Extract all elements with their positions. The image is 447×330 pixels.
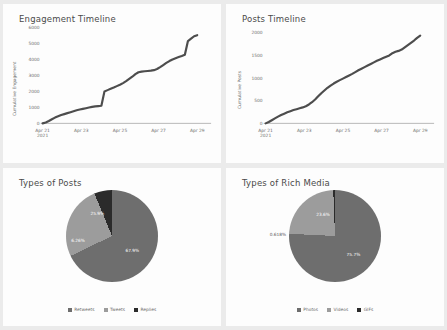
y-tick-label: 500	[226, 98, 263, 103]
x-tick-label: Apr 25	[104, 128, 136, 134]
legend-swatch-icon	[134, 308, 138, 312]
legend-swatch-icon	[104, 308, 108, 312]
x-tick-label: Apr 23	[65, 128, 97, 134]
x-tick-sublabel: 2021	[27, 133, 59, 139]
dashboard-grid: Engagement Timeline Cumulative Engagemen…	[0, 0, 447, 330]
panel-types-of-rich-media: Types of Rich Media 75.7%23.6%0.618% Pho…	[226, 168, 444, 327]
legend-label: Replies	[140, 307, 156, 312]
types-of-rich-media-legend: PhotosVideosGIFs	[226, 307, 444, 312]
x-tick-label: Apr 29	[404, 128, 436, 134]
pie-slice-label: 23.6%	[316, 212, 330, 217]
x-tick-label: Apr 212021	[27, 128, 59, 139]
x-tick-label: Apr 23	[288, 128, 320, 134]
pie-slice-label: 75.7%	[347, 251, 361, 256]
types-of-rich-media-pie-area: 75.7%23.6%0.618%	[226, 190, 444, 282]
y-tick-label: 4000	[3, 57, 40, 62]
pie-slice-label: 0.618%	[270, 231, 286, 236]
types-of-posts-pie: 67.9%25.9%6.26%	[66, 190, 158, 282]
y-tick-label: 2000	[3, 89, 40, 94]
legend-swatch-icon	[357, 308, 361, 312]
legend-label: Photos	[303, 307, 318, 312]
legend-label: GIFs	[364, 307, 374, 312]
legend-swatch-icon	[297, 308, 301, 312]
y-tick-label: 0	[226, 121, 263, 126]
types-of-posts-legend: RetweetsTweetsReplies	[3, 307, 221, 312]
y-tick-label: 0	[3, 121, 40, 126]
panel-posts-timeline: Posts Timeline Cumulative Posts 05001000…	[226, 4, 444, 163]
legend-item[interactable]: GIFs	[357, 307, 373, 312]
pie-slice-label: 67.9%	[125, 248, 139, 253]
types-of-posts-pie-area: 67.9%25.9%6.26%	[3, 190, 221, 282]
legend-label: Tweets	[110, 307, 125, 312]
posts-chart-area: Cumulative Posts 0500100015002000 Apr 21…	[226, 4, 444, 163]
legend-swatch-icon	[68, 308, 72, 312]
panel-title-types-of-rich-media: Types of Rich Media	[242, 178, 330, 188]
y-tick-label: 1000	[226, 76, 263, 81]
types-of-rich-media-pie: 75.7%23.6%0.618%	[289, 190, 381, 282]
engagement-chart-area: Cumulative Engagement 010002000300040005…	[3, 4, 221, 163]
panel-types-of-posts: Types of Posts 67.9%25.9%6.26% RetweetsT…	[3, 168, 221, 327]
legend-item[interactable]: Videos	[327, 307, 348, 312]
x-tick-label: Apr 25	[327, 128, 359, 134]
legend-item[interactable]: Replies	[134, 307, 156, 312]
y-tick-label: 6000	[3, 25, 40, 30]
pie-slice-label: 6.26%	[71, 238, 85, 243]
y-tick-label: 1500	[226, 53, 263, 58]
pie-slice-label: 25.9%	[90, 211, 104, 216]
y-tick-label: 5000	[3, 41, 40, 46]
panel-title-types-of-posts: Types of Posts	[19, 178, 82, 188]
y-tick-label: 3000	[3, 73, 40, 78]
legend-item[interactable]: Photos	[297, 307, 318, 312]
x-tick-sublabel: 2021	[250, 133, 282, 139]
y-tick-label: 2000	[226, 30, 263, 35]
legend-label: Videos	[334, 307, 349, 312]
x-tick-label: Apr 29	[181, 128, 213, 134]
x-tick-label: Apr 212021	[250, 128, 282, 139]
legend-item[interactable]: Tweets	[104, 307, 125, 312]
legend-label: Retweets	[74, 307, 94, 312]
y-tick-label: 1000	[3, 105, 40, 110]
legend-item[interactable]: Retweets	[68, 307, 95, 312]
legend-swatch-icon	[327, 308, 331, 312]
x-tick-label: Apr 27	[143, 128, 175, 134]
x-tick-label: Apr 27	[366, 128, 398, 134]
panel-engagement-timeline: Engagement Timeline Cumulative Engagemen…	[3, 4, 221, 163]
